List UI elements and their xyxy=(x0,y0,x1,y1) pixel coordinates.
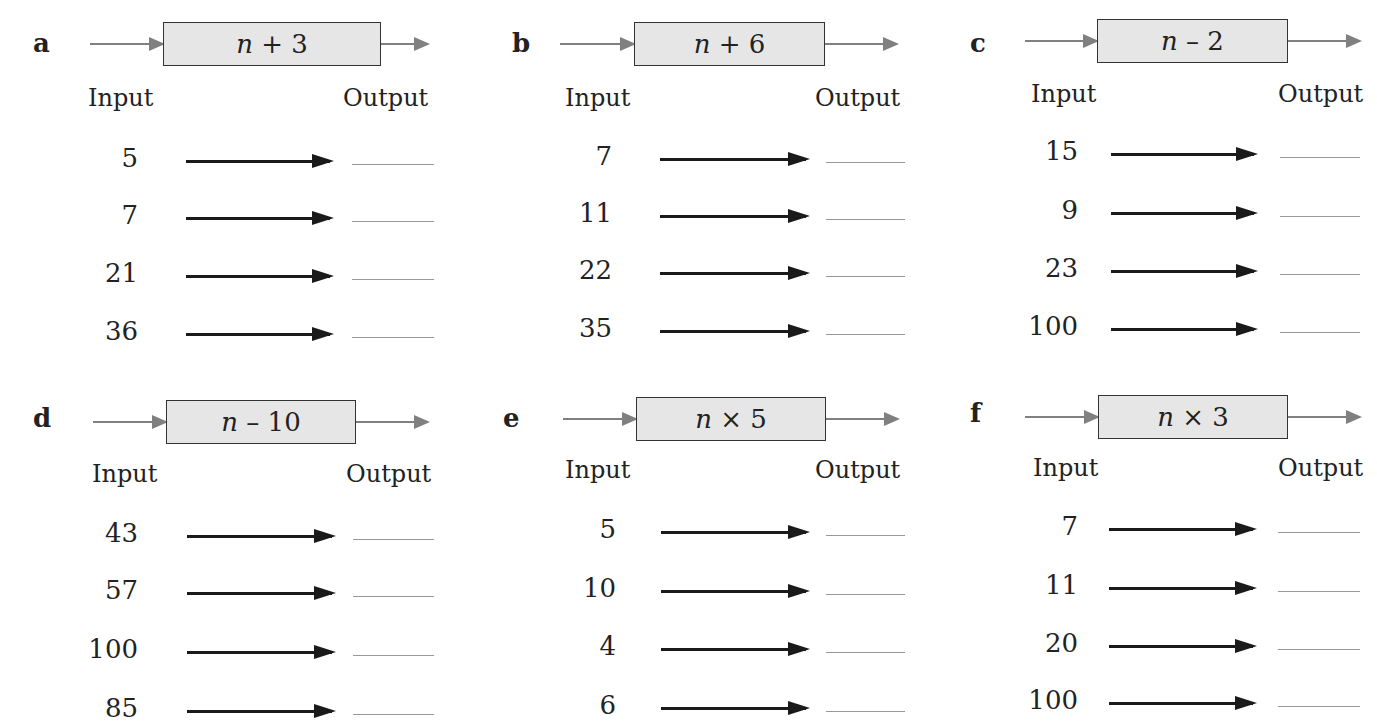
output-answer-blank[interactable] xyxy=(352,337,434,338)
input-value: 100 xyxy=(1018,685,1078,715)
output-answer-blank[interactable] xyxy=(826,334,905,335)
input-header: Input xyxy=(1033,454,1098,482)
output-answer-blank[interactable] xyxy=(1280,332,1360,333)
input-value: 57 xyxy=(78,575,138,605)
input-header: Input xyxy=(565,84,630,112)
input-header: Input xyxy=(565,456,630,484)
rule-operation: + 6 xyxy=(710,29,765,59)
output-answer-blank[interactable] xyxy=(826,711,905,712)
input-value: 22 xyxy=(552,255,612,285)
output-answer-blank[interactable] xyxy=(352,279,434,280)
maps-to-arrow-icon xyxy=(187,535,332,538)
output-answer-blank[interactable] xyxy=(1278,532,1360,533)
question-letter: f xyxy=(970,398,981,428)
function-rule-box: n – 10 xyxy=(166,400,356,444)
maps-to-arrow-icon xyxy=(1111,153,1254,156)
input-value: 4 xyxy=(556,631,616,661)
output-answer-blank[interactable] xyxy=(826,276,905,277)
output-flow-arrow-icon xyxy=(1288,416,1360,418)
output-answer-blank[interactable] xyxy=(1280,216,1360,217)
question-letter: d xyxy=(33,403,51,433)
input-header: Input xyxy=(92,460,157,488)
output-answer-blank[interactable] xyxy=(826,162,905,163)
input-flow-arrow-icon xyxy=(93,421,166,423)
maps-to-arrow-icon xyxy=(1109,528,1253,531)
input-value: 7 xyxy=(78,200,138,230)
output-answer-blank[interactable] xyxy=(1278,591,1360,592)
input-value: 100 xyxy=(1018,311,1078,341)
maps-to-arrow-icon xyxy=(660,215,806,218)
input-header: Input xyxy=(88,84,153,112)
output-answer-blank[interactable] xyxy=(826,535,905,536)
output-answer-blank[interactable] xyxy=(352,164,434,165)
input-value: 5 xyxy=(78,143,138,173)
input-flow-arrow-icon xyxy=(560,43,634,45)
variable-n: n xyxy=(236,29,253,59)
input-value: 11 xyxy=(1018,570,1078,600)
output-answer-blank[interactable] xyxy=(353,596,434,597)
output-answer-blank[interactable] xyxy=(353,655,434,656)
question-letter: a xyxy=(33,28,50,58)
rule-operation: × 5 xyxy=(712,404,767,434)
maps-to-arrow-icon xyxy=(660,330,806,333)
maps-to-arrow-icon xyxy=(1109,645,1253,648)
input-value: 7 xyxy=(1018,511,1078,541)
maps-to-arrow-icon xyxy=(661,707,806,710)
input-value: 11 xyxy=(552,198,612,228)
output-answer-blank[interactable] xyxy=(353,539,434,540)
variable-n: n xyxy=(694,29,711,59)
maps-to-arrow-icon xyxy=(186,160,330,163)
output-answer-blank[interactable] xyxy=(353,714,434,715)
maps-to-arrow-icon xyxy=(186,333,330,336)
input-value: 6 xyxy=(556,690,616,720)
output-flow-arrow-icon xyxy=(825,43,897,45)
input-value: 9 xyxy=(1018,195,1078,225)
output-flow-arrow-icon xyxy=(356,421,428,423)
variable-n: n xyxy=(1157,402,1174,432)
output-header: Output xyxy=(343,84,428,112)
maps-to-arrow-icon xyxy=(1109,702,1253,705)
input-value: 15 xyxy=(1018,136,1078,166)
output-answer-blank[interactable] xyxy=(1278,649,1360,650)
maps-to-arrow-icon xyxy=(660,158,806,161)
input-value: 7 xyxy=(552,141,612,171)
variable-n: n xyxy=(221,407,238,437)
output-answer-blank[interactable] xyxy=(1280,274,1360,275)
function-rule-box: n – 2 xyxy=(1097,19,1288,63)
maps-to-arrow-icon xyxy=(1109,587,1253,590)
maps-to-arrow-icon xyxy=(187,592,332,595)
output-header: Output xyxy=(815,456,900,484)
input-value: 23 xyxy=(1018,253,1078,283)
output-flow-arrow-icon xyxy=(826,418,898,420)
maps-to-arrow-icon xyxy=(186,275,330,278)
maps-to-arrow-icon xyxy=(187,651,332,654)
variable-n: n xyxy=(1161,26,1178,56)
output-header: Output xyxy=(1278,454,1363,482)
question-letter: e xyxy=(503,403,520,433)
input-value: 100 xyxy=(78,634,138,664)
output-answer-blank[interactable] xyxy=(826,219,905,220)
output-answer-blank[interactable] xyxy=(1280,157,1360,158)
input-value: 35 xyxy=(552,313,612,343)
output-answer-blank[interactable] xyxy=(826,652,905,653)
maps-to-arrow-icon xyxy=(661,648,806,651)
input-flow-arrow-icon xyxy=(563,418,636,420)
output-answer-blank[interactable] xyxy=(826,594,905,595)
input-value: 43 xyxy=(78,518,138,548)
function-rule-box: n + 3 xyxy=(163,22,381,66)
output-answer-blank[interactable] xyxy=(1278,706,1360,707)
output-flow-arrow-icon xyxy=(1288,40,1360,42)
output-header: Output xyxy=(346,460,431,488)
function-rule-box: n + 6 xyxy=(634,22,825,66)
maps-to-arrow-icon xyxy=(660,272,806,275)
maps-to-arrow-icon xyxy=(187,710,332,713)
rule-operation: + 3 xyxy=(253,29,308,59)
input-value: 5 xyxy=(556,514,616,544)
function-rule-box: n × 3 xyxy=(1098,395,1288,439)
rule-operation: – 2 xyxy=(1178,26,1224,56)
maps-to-arrow-icon xyxy=(186,217,330,220)
input-flow-arrow-icon xyxy=(90,43,163,45)
output-header: Output xyxy=(1278,80,1363,108)
output-answer-blank[interactable] xyxy=(352,221,434,222)
rule-operation: – 10 xyxy=(238,407,301,437)
